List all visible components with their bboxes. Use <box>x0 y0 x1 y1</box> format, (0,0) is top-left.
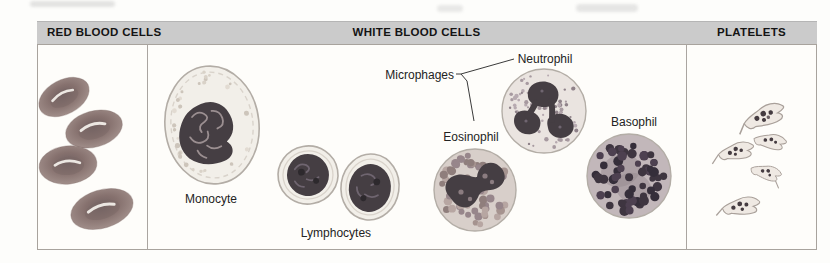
granule <box>647 151 654 158</box>
granule <box>547 74 549 76</box>
granule <box>611 186 619 194</box>
basophil-illustration <box>587 134 671 218</box>
granule <box>639 196 649 206</box>
granule <box>467 159 474 166</box>
blood-cells-figure: RED BLOOD CELLS WHITE BLOOD CELLS PLATEL… <box>0 0 830 263</box>
connector-to-eosinophil <box>461 74 474 121</box>
granule <box>630 143 636 149</box>
granule <box>626 206 634 214</box>
granule <box>559 138 563 142</box>
granule <box>529 75 531 77</box>
granule <box>618 145 624 151</box>
platelets-illustration <box>710 100 788 216</box>
granule <box>520 79 523 82</box>
neutrophil-illustration <box>502 69 586 153</box>
granule <box>542 114 544 116</box>
granule <box>604 191 611 198</box>
red-blood-cells-illustration <box>32 69 138 236</box>
granule <box>486 194 494 202</box>
granule <box>509 93 513 97</box>
granule <box>625 189 634 198</box>
granule <box>557 103 561 107</box>
granule <box>594 173 603 182</box>
granule <box>596 191 604 199</box>
neutrophil-label: Neutrophil <box>518 52 573 66</box>
granule <box>555 141 557 143</box>
platelet <box>734 100 788 134</box>
granule <box>524 100 528 104</box>
granule <box>597 152 604 159</box>
red-blood-cell <box>66 181 138 236</box>
granule <box>482 206 489 213</box>
eosinophil-illustration <box>434 149 516 231</box>
microphages-label: Microphages <box>385 68 454 82</box>
granule <box>541 119 544 122</box>
red-blood-cell <box>37 143 99 187</box>
granule <box>574 129 578 133</box>
granule <box>612 174 620 182</box>
platelet <box>753 130 788 151</box>
granule <box>606 202 614 210</box>
monocyte-label: Monocyte <box>185 192 237 206</box>
granule <box>447 166 453 172</box>
granule <box>647 166 654 173</box>
lymphocytes-illustration <box>273 141 403 223</box>
granule <box>517 99 520 102</box>
granule <box>660 173 667 180</box>
granule <box>650 159 657 166</box>
eosinophil-label: Eosinophil <box>443 130 498 144</box>
granule <box>439 181 445 187</box>
granule <box>625 173 633 181</box>
granule <box>566 138 570 142</box>
lymphocyte <box>273 141 342 209</box>
granule <box>513 96 517 100</box>
granule <box>440 171 448 179</box>
lymphocyte <box>337 150 404 223</box>
granule <box>565 101 567 103</box>
granule <box>465 212 471 218</box>
granule <box>627 149 636 158</box>
granule <box>509 107 511 109</box>
granule <box>528 143 530 145</box>
granule <box>564 88 566 90</box>
granule <box>552 145 556 149</box>
granule <box>527 106 529 108</box>
granule <box>453 161 460 168</box>
cell-illustrations <box>0 0 830 263</box>
granule <box>565 103 569 107</box>
granule <box>465 153 471 159</box>
granule <box>538 130 541 133</box>
granule <box>496 202 504 210</box>
granule <box>448 205 456 213</box>
granule <box>526 82 529 85</box>
granule <box>515 110 518 113</box>
granule <box>571 86 575 90</box>
granule <box>514 106 517 109</box>
granule <box>650 192 659 201</box>
granule <box>574 124 578 128</box>
granule <box>638 168 647 177</box>
granule <box>617 165 624 172</box>
granule <box>600 162 608 170</box>
granule <box>639 183 646 190</box>
platelet <box>710 140 755 163</box>
platelet <box>748 161 785 189</box>
granule <box>608 147 617 156</box>
granule <box>543 107 546 110</box>
granule <box>532 145 534 147</box>
granule <box>523 78 525 80</box>
lymphocytes-label: Lymphocytes <box>301 226 371 240</box>
monocyte-illustration <box>159 61 265 188</box>
connector-to-neutrophil <box>456 59 514 74</box>
granule <box>459 209 465 215</box>
granule <box>635 161 641 167</box>
granule <box>544 137 548 141</box>
granule <box>573 121 576 124</box>
granule <box>521 92 523 94</box>
platelet <box>715 196 760 216</box>
granule <box>477 221 483 227</box>
granule <box>558 99 562 103</box>
basophil-label: Basophil <box>611 115 657 129</box>
granule <box>617 151 627 161</box>
granule <box>555 111 559 115</box>
